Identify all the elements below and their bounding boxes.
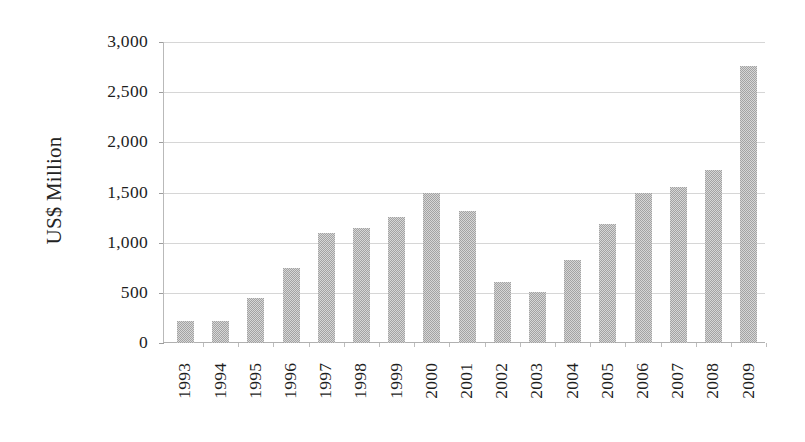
bar — [705, 170, 722, 343]
gridline — [163, 142, 765, 143]
plot-area — [163, 42, 765, 343]
x-axis-tick-label: 2008 — [703, 350, 725, 430]
x-axis-tick-label-text: 1993 — [177, 363, 195, 399]
x-axis-tick-label-text: 2003 — [529, 363, 547, 399]
bar — [423, 193, 440, 344]
bar — [459, 211, 476, 343]
bar — [212, 321, 229, 343]
x-axis-tick-label: 1996 — [280, 350, 302, 430]
x-axis-tick-mark — [379, 343, 380, 347]
x-axis-tick-mark — [203, 343, 204, 347]
bar — [388, 217, 405, 343]
x-axis-tick-mark — [590, 343, 591, 347]
x-axis-tick-mark — [520, 343, 521, 347]
y-axis-tick-mark — [159, 343, 164, 344]
x-axis-tick-label: 1997 — [315, 350, 337, 430]
x-axis-tick-label: 2007 — [667, 350, 689, 430]
x-axis-tick-label: 2004 — [562, 350, 584, 430]
x-axis-tick-label: 1998 — [351, 350, 373, 430]
gridline — [163, 42, 765, 43]
y-axis-line — [163, 42, 164, 343]
bar — [635, 193, 652, 344]
x-axis-tick-label-text: 2008 — [705, 363, 723, 399]
x-axis-tick-label: 2002 — [491, 350, 513, 430]
x-axis-tick-label-text: 1999 — [388, 363, 406, 399]
x-axis-tick-mark — [696, 343, 697, 347]
x-axis-tick-mark — [625, 343, 626, 347]
x-axis-tick-label-text: 2002 — [494, 363, 512, 399]
x-axis-tick-label: 2005 — [597, 350, 619, 430]
x-axis-tick-label-text: 1996 — [282, 363, 300, 399]
x-axis-tick-mark — [273, 343, 274, 347]
x-axis-tick-mark — [449, 343, 450, 347]
bar — [494, 282, 511, 343]
y-axis-tick-label: 500 — [58, 284, 148, 302]
gridline — [163, 92, 765, 93]
x-axis-tick-mark — [661, 343, 662, 347]
x-axis-tick-mark — [344, 343, 345, 347]
x-axis-tick-mark — [766, 343, 767, 347]
x-axis-tick-label: 1994 — [210, 350, 232, 430]
x-axis-tick-label-text: 2000 — [423, 363, 441, 399]
x-axis-tick-label-text: 2005 — [599, 363, 617, 399]
x-axis-tick-mark — [238, 343, 239, 347]
x-axis-tick-label: 2000 — [421, 350, 443, 430]
x-axis-tick-label-text: 1997 — [318, 363, 336, 399]
y-axis-tick-label: 0 — [58, 334, 148, 352]
bar — [318, 233, 335, 343]
x-axis-tick-label: 1999 — [386, 350, 408, 430]
x-axis-tick-label-text: 1994 — [212, 363, 230, 399]
x-axis-tick-label-text: 2004 — [564, 363, 582, 399]
bar — [599, 224, 616, 343]
bar — [247, 298, 264, 343]
x-axis-tick-mark — [414, 343, 415, 347]
x-axis-tick-label-text: 2001 — [458, 363, 476, 399]
x-axis-tick-label-text: 2007 — [670, 363, 688, 399]
x-axis-tick-label: 2001 — [456, 350, 478, 430]
bar — [177, 321, 194, 343]
bar — [353, 228, 370, 343]
x-axis-tick-mark — [309, 343, 310, 347]
y-axis-tick-label: 1,500 — [58, 184, 148, 202]
bar — [740, 66, 757, 343]
x-axis-tick-label: 2009 — [738, 350, 760, 430]
bar — [283, 268, 300, 343]
y-axis-tick-label: 3,000 — [58, 33, 148, 51]
y-axis-tick-label: 2,500 — [58, 83, 148, 101]
bar — [670, 187, 687, 343]
x-axis-tick-label: 2003 — [527, 350, 549, 430]
x-axis-tick-label-text: 2009 — [740, 363, 758, 399]
bar — [564, 260, 581, 343]
x-axis-tick-mark — [731, 343, 732, 347]
bar-chart-figure: US$ Million 05001,0001,5002,0002,5003,00… — [0, 0, 805, 442]
y-axis-tick-label: 1,000 — [58, 234, 148, 252]
x-axis-tick-mark — [555, 343, 556, 347]
x-axis-tick-label: 2006 — [632, 350, 654, 430]
gridline — [163, 343, 765, 344]
x-axis-tick-label-text: 1998 — [353, 363, 371, 399]
x-axis-tick-mark — [485, 343, 486, 347]
x-axis-tick-label: 1993 — [175, 350, 197, 430]
x-axis-tick-label: 1995 — [245, 350, 267, 430]
y-axis-tick-label: 2,000 — [58, 134, 148, 152]
x-axis-tick-label-text: 1995 — [247, 363, 265, 399]
x-axis-tick-label-text: 2006 — [634, 363, 652, 399]
bar — [529, 292, 546, 343]
